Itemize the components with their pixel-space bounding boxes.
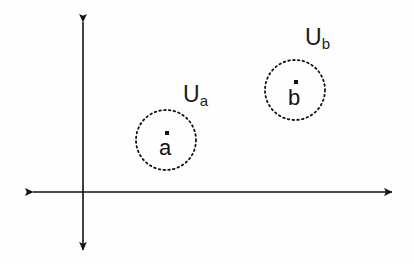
set-label-ub: Ub	[305, 26, 330, 49]
point-label-b: b	[288, 87, 300, 109]
diagram-svg	[0, 0, 414, 264]
set-label-ub-subscript: b	[322, 35, 330, 52]
figure-canvas: Ua Ub a b	[0, 0, 414, 264]
point-marker-a	[165, 131, 169, 135]
set-label-ua-base: U	[183, 81, 200, 107]
set-label-ua: Ua	[183, 83, 208, 106]
point-label-a: a	[159, 137, 171, 159]
set-label-ub-base: U	[305, 24, 322, 50]
set-label-ua-subscript: a	[200, 92, 208, 109]
point-marker-b	[294, 80, 298, 84]
